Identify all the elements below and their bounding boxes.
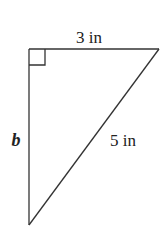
top-side-label: 3 in	[76, 28, 102, 47]
left-side-label: b	[12, 130, 21, 150]
hypotenuse-label: 5 in	[110, 131, 136, 150]
right-triangle-diagram: 3 in b 5 in	[0, 0, 168, 236]
right-angle-marker-icon	[29, 49, 45, 65]
triangle	[29, 49, 159, 225]
hypotenuse-line	[29, 49, 159, 225]
